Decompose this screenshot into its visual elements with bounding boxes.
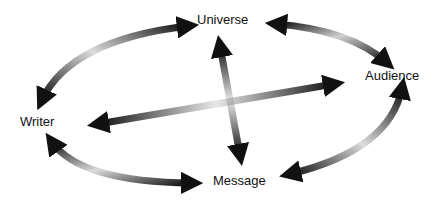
communication-diagram: Universe Audience Writer Message [0, 0, 445, 202]
node-writer: Writer [20, 114, 54, 129]
arrow-writer-universe [42, 26, 188, 100]
node-universe: Universe [197, 12, 248, 27]
arrow-writer-audience [98, 84, 334, 124]
arrow-audience-message [290, 88, 402, 174]
arrow-message-writer [52, 142, 192, 183]
arrow-universe-audience [276, 24, 386, 62]
arrows-layer [0, 0, 445, 202]
node-audience: Audience [365, 68, 419, 83]
node-message: Message [213, 173, 266, 188]
